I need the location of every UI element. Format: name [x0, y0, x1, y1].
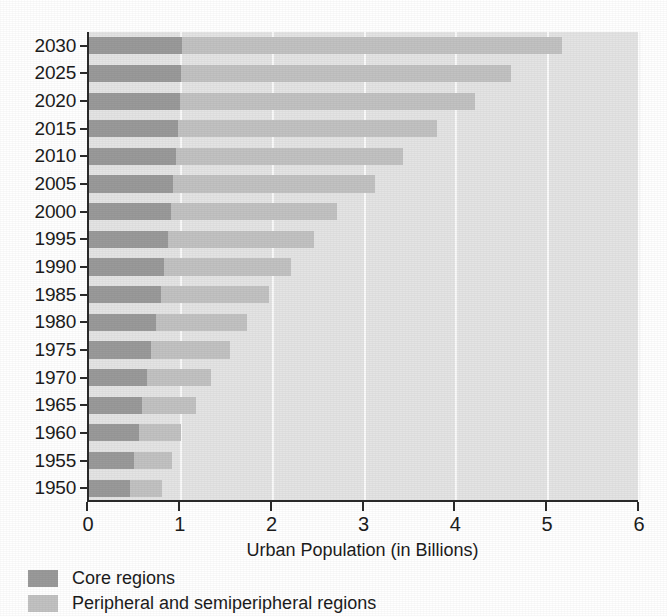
bar-segment-core [89, 369, 147, 386]
bar-segment-periphery [176, 148, 403, 165]
x-axis-title: Urban Population (in Billions) [87, 540, 638, 561]
bar-row [89, 314, 247, 331]
y-tick-mark-1970 [80, 377, 89, 379]
legend-swatch-periphery [28, 595, 58, 612]
bar-segment-periphery [178, 120, 437, 137]
bar-segment-periphery [161, 286, 269, 303]
x-tick-mark-6 [637, 502, 639, 511]
y-tick-mark-2020 [80, 100, 89, 102]
x-tick-label-3: 3 [344, 513, 384, 535]
bar-segment-core [89, 314, 156, 331]
legend-label: Peripheral and semiperipheral regions [72, 593, 376, 614]
bar-segment-periphery [151, 341, 230, 358]
chart-legend: Core regionsPeripheral and semiperiphera… [28, 566, 628, 616]
y-tick-label-2005: 2005 [10, 174, 76, 193]
y-tick-label-2020: 2020 [10, 91, 76, 110]
y-tick-label-2015: 2015 [10, 119, 76, 138]
bar-segment-core [89, 341, 151, 358]
y-tick-label-1950: 1950 [10, 478, 76, 497]
legend-item[interactable]: Core regions [28, 566, 628, 591]
x-tick-label-0: 0 [68, 513, 108, 535]
y-tick-mark-1985 [80, 294, 89, 296]
bar-segment-core [89, 120, 178, 137]
y-tick-mark-1990 [80, 266, 89, 268]
bar-segment-periphery [164, 258, 291, 275]
y-tick-label-1975: 1975 [10, 340, 76, 359]
y-tick-label-1990: 1990 [10, 257, 76, 276]
chart-page: 2030202520202015201020052000199519901985… [0, 0, 667, 616]
legend-swatch-core [28, 570, 58, 587]
x-tick-label-6: 6 [619, 513, 659, 535]
bar-segment-periphery [181, 65, 512, 82]
x-tick-mark-3 [362, 502, 364, 511]
bar-segment-core [89, 397, 142, 414]
bar-segment-core [89, 258, 164, 275]
x-tick-label-2: 2 [252, 513, 292, 535]
bar-row [89, 93, 475, 110]
y-tick-mark-1995 [80, 238, 89, 240]
x-tick-label-1: 1 [160, 513, 200, 535]
y-tick-mark-1955 [80, 460, 89, 462]
y-tick-label-1955: 1955 [10, 451, 76, 470]
legend-label: Core regions [72, 568, 175, 589]
y-tick-mark-1965 [80, 404, 89, 406]
x-tick-label-4: 4 [435, 513, 475, 535]
bar-row [89, 148, 403, 165]
bar-segment-periphery [171, 203, 337, 220]
bar-segment-periphery [180, 93, 475, 110]
bar-row [89, 175, 375, 192]
y-tick-mark-1960 [80, 432, 89, 434]
bar-row [89, 369, 211, 386]
bar-row [89, 231, 314, 248]
bar-row [89, 286, 269, 303]
bar-series-group [89, 32, 638, 500]
bar-segment-core [89, 424, 139, 441]
bar-segment-core [89, 93, 180, 110]
bar-row [89, 341, 230, 358]
bar-segment-periphery [130, 480, 162, 497]
legend-item[interactable]: Peripheral and semiperipheral regions [28, 591, 628, 616]
x-tick-mark-2 [270, 502, 272, 511]
bar-segment-periphery [142, 397, 196, 414]
x-tick-mark-5 [545, 502, 547, 511]
bar-segment-periphery [168, 231, 314, 248]
y-tick-mark-1980 [80, 321, 89, 323]
y-tick-label-1995: 1995 [10, 229, 76, 248]
y-axis: 2030202520202015201020052000199519901985… [0, 0, 76, 616]
y-tick-mark-2010 [80, 155, 89, 157]
y-tick-mark-1950 [80, 487, 89, 489]
bar-segment-core [89, 452, 134, 469]
bar-segment-core [89, 203, 171, 220]
bar-segment-periphery [173, 175, 374, 192]
bar-segment-core [89, 480, 130, 497]
bar-segment-core [89, 175, 173, 192]
bar-row [89, 397, 196, 414]
y-tick-label-2000: 2000 [10, 202, 76, 221]
y-tick-label-1980: 1980 [10, 312, 76, 331]
y-tick-label-1985: 1985 [10, 285, 76, 304]
bar-segment-core [89, 231, 168, 248]
bar-row [89, 37, 562, 54]
bar-segment-periphery [134, 452, 172, 469]
bar-row [89, 452, 172, 469]
y-tick-label-1970: 1970 [10, 368, 76, 387]
y-tick-label-1960: 1960 [10, 423, 76, 442]
x-tick-mark-1 [178, 502, 180, 511]
y-tick-mark-2005 [80, 183, 89, 185]
bar-segment-periphery [182, 37, 562, 54]
y-tick-mark-1975 [80, 349, 89, 351]
y-tick-label-2010: 2010 [10, 146, 76, 165]
bar-segment-core [89, 37, 182, 54]
plot-area [87, 32, 638, 502]
bar-row [89, 203, 337, 220]
y-tick-mark-2000 [80, 211, 89, 213]
y-tick-mark-2015 [80, 128, 89, 130]
bar-row [89, 258, 291, 275]
bar-row [89, 120, 437, 137]
gridline-6 [639, 32, 641, 500]
x-tick-mark-0 [86, 502, 88, 511]
bar-segment-core [89, 148, 176, 165]
y-tick-label-2025: 2025 [10, 63, 76, 82]
y-tick-label-2030: 2030 [10, 36, 76, 55]
bar-row [89, 424, 181, 441]
